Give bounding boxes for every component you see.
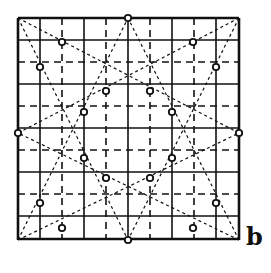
- intersection-circle: [236, 130, 242, 136]
- intersection-circle: [59, 225, 65, 231]
- intersection-circle: [81, 155, 87, 161]
- intersection-circle: [147, 88, 153, 94]
- intersection-circle: [169, 109, 175, 115]
- intersection-circle: [213, 64, 219, 70]
- intersection-circle: [147, 175, 153, 181]
- figure-label: b: [246, 225, 263, 249]
- intersection-circle: [59, 39, 65, 45]
- intersection-circle: [169, 155, 175, 161]
- intersection-circle: [190, 39, 196, 45]
- intersection-circle: [125, 15, 131, 21]
- intersection-circle: [103, 88, 109, 94]
- star-grid-diagram: [0, 0, 271, 273]
- intersection-circle: [15, 130, 21, 136]
- intersection-circle: [37, 200, 43, 206]
- intersection-circle: [125, 237, 131, 243]
- intersection-circle: [213, 200, 219, 206]
- intersection-circle: [37, 64, 43, 70]
- intersection-circle: [103, 175, 109, 181]
- intersection-circle: [190, 225, 196, 231]
- intersection-circle: [81, 109, 87, 115]
